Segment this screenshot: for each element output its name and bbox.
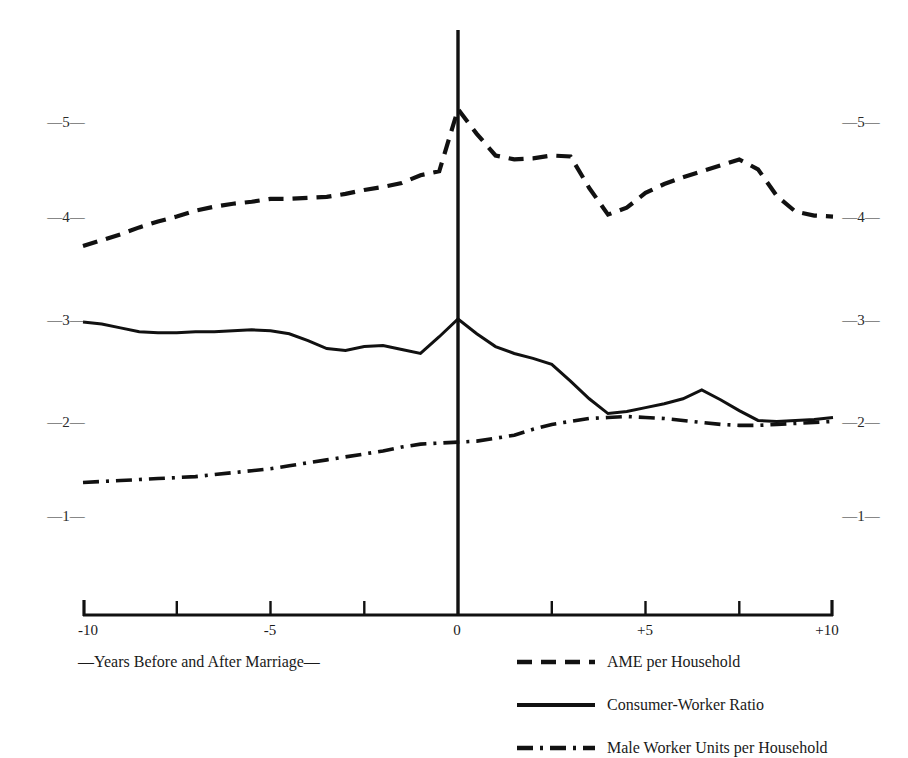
x-axis-label-plus10: +10 (815, 622, 838, 639)
y-axis-right-label-5: —5— (842, 114, 880, 131)
chart-figure: —5— —4— —3— —2— —1— —5— —4— —3— —2— —1— … (0, 0, 908, 758)
x-axis-caption: —Years Before and After Marriage— (78, 653, 320, 671)
y-axis-left-label-4: —4— (47, 209, 85, 226)
chart-canvas (0, 0, 908, 758)
y-axis-left-label-5: —5— (47, 114, 85, 131)
y-axis-right-label-1: —1— (842, 508, 880, 525)
legend-item-consumer-worker-ratio: Consumer-Worker Ratio (607, 696, 764, 714)
legend-item-ame-per-household: AME per Household (607, 653, 740, 671)
y-axis-right-label-2: —2— (842, 414, 880, 431)
x-axis-label-zero: 0 (453, 622, 461, 639)
y-axis-left-label-2: —2— (47, 414, 85, 431)
y-axis-left-label-3: —3— (47, 312, 85, 329)
x-axis-label-minus5: -5 (264, 622, 277, 639)
legend-swatch-group (517, 662, 595, 748)
x-axis-label-minus10: -10 (78, 622, 98, 639)
y-axis-right-label-3: —3— (842, 312, 880, 329)
y-axis-right-label-4: —4— (842, 209, 880, 226)
y-axis-left-label-1: —1— (47, 508, 85, 525)
x-axis-label-plus5: +5 (637, 622, 653, 639)
legend-item-male-worker-units: Male Worker Units per Household (607, 739, 828, 757)
